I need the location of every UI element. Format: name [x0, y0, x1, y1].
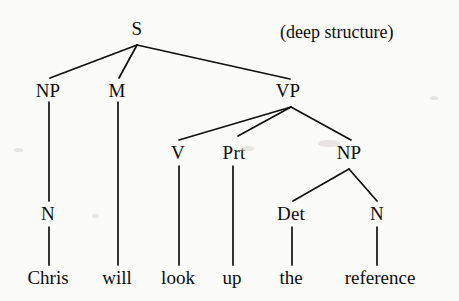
tree-word-w5: the [279, 268, 302, 287]
tree-edge-np2-n2 [349, 169, 377, 201]
tree-node-prt: Prt [223, 143, 246, 162]
tree-node-np1: NP [36, 81, 61, 100]
tree-node-vp: VP [276, 81, 301, 100]
tree-word-w3: look [161, 268, 195, 287]
tree-node-n2: N [370, 204, 384, 223]
tree-edge-vp-v [179, 107, 291, 140]
tree-node-n1: N [41, 204, 55, 223]
tree-word-w2: will [102, 268, 132, 287]
tree-node-det: Det [277, 204, 305, 223]
deep-structure-caption: (deep structure) [280, 22, 393, 43]
tree-edge-vp-prt [238, 107, 291, 136]
tree-node-v: V [171, 143, 185, 162]
tree-node-np2: NP [337, 143, 362, 162]
syntax-tree-figure: SNPMVPNVPrtNPDetNChriswilllookuptherefer… [0, 0, 459, 301]
tree-edge-s-np1 [50, 45, 137, 78]
tree-node-s: S [132, 19, 143, 38]
tree-word-w4: up [223, 268, 242, 287]
tree-edge-vp-np2 [291, 107, 351, 140]
tree-edge-s-vp [137, 45, 290, 79]
tree-node-m: M [108, 81, 125, 100]
tree-word-w6: reference [345, 268, 416, 287]
tree-edge-np2-det [293, 169, 349, 201]
tree-word-w1: Chris [27, 268, 68, 287]
